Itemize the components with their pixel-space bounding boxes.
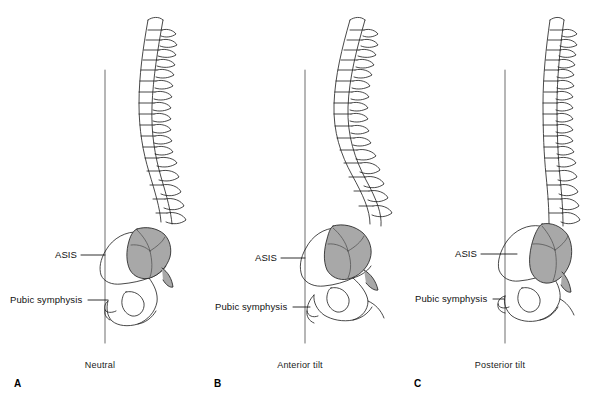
asis-label: ASIS — [455, 248, 477, 259]
panel-c-letter: C — [414, 378, 421, 389]
panel-b-letter: B — [214, 378, 221, 389]
panel-b-illustration — [200, 0, 400, 399]
panel-a: ASIS Pubic symphysis Neutral A — [0, 0, 200, 399]
panel-c-caption: Posterior tilt — [400, 360, 600, 370]
panel-c: ASIS Pubic symphysis Posterior tilt C — [400, 0, 600, 399]
panel-a-illustration — [0, 0, 200, 399]
sacrum — [324, 225, 378, 290]
vertebral-column — [139, 17, 186, 224]
panel-b-caption: Anterior tilt — [200, 360, 400, 370]
vertebral-column — [543, 17, 580, 226]
pubic-symphysis-label: Pubic symphysis — [215, 301, 287, 312]
panel-c-illustration — [400, 0, 600, 399]
pelvic-tilt-figure: ASIS Pubic symphysis Neutral A — [0, 0, 600, 399]
vertebral-column — [334, 17, 392, 226]
panel-b: ASIS Pubic symphysis Anterior tilt B — [200, 0, 400, 399]
sacrum — [530, 223, 572, 292]
pubic-symphysis-label: Pubic symphysis — [10, 294, 82, 305]
asis-label: ASIS — [255, 252, 277, 263]
pubic-symphysis-label: Pubic symphysis — [415, 293, 487, 304]
sacrum — [127, 228, 173, 288]
asis-label: ASIS — [55, 249, 77, 260]
panel-a-letter: A — [14, 378, 21, 389]
panel-a-caption: Neutral — [0, 360, 200, 370]
